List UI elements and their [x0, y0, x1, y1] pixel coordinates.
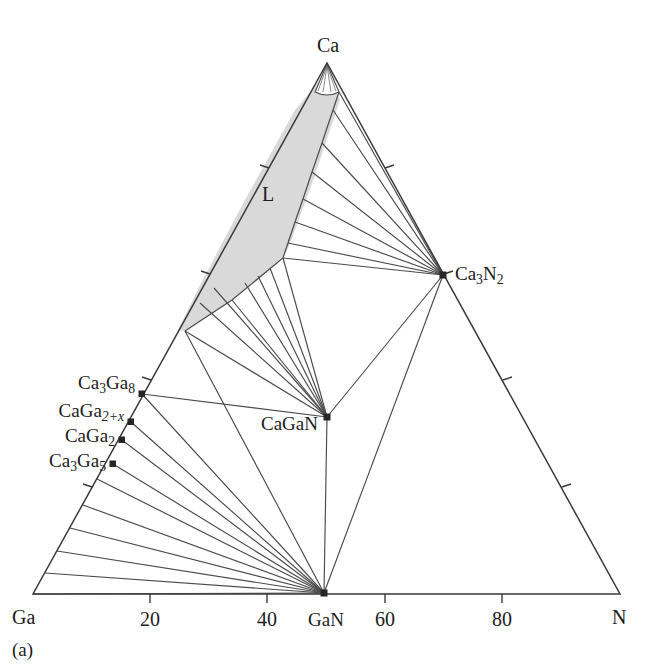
phase-label-ca3n2-mid: N: [483, 263, 497, 284]
marker-ca3ga5: [110, 461, 117, 468]
tick-label-40: 40: [257, 609, 277, 629]
tick-label-80: 80: [492, 609, 512, 629]
phase-label-caga2x: CaGa2+x: [59, 401, 124, 424]
marker-gan: [321, 590, 328, 597]
phase-label-ca3n2-sub2: 2: [497, 272, 504, 287]
phase-diagram-canvas: [0, 0, 648, 666]
phase-label-ca3ga5-sub2: 5: [99, 459, 106, 474]
marker-caga2: [119, 437, 126, 444]
phase-label-gan: GaN: [308, 610, 344, 629]
phase-label-gan-text: GaN: [308, 609, 344, 630]
phase-label-cagan: CaGaN: [261, 414, 318, 433]
phase-label-ca3n2: Ca3N2: [455, 264, 504, 287]
ternary-phase-diagram: Ga N Ca 20 40 60 80 GaN Ca3N2 CaGaN Ca3G…: [0, 0, 648, 666]
phase-label-ca3ga5: Ca3Ga5: [49, 451, 106, 474]
phase-label-cagan-text: CaGaN: [261, 413, 318, 434]
phase-label-caga2x-sub1: 2+x: [102, 409, 124, 424]
marker-ca3n2: [440, 272, 447, 279]
phase-label-caga2: CaGa2: [65, 426, 115, 449]
triangle-outline: [33, 63, 620, 594]
phase-label-ca3n2-base: Ca: [455, 263, 476, 284]
marker-cagan: [324, 414, 331, 421]
tick-label-60: 60: [375, 609, 395, 629]
phase-label-ca3n2-sub1: 3: [476, 272, 483, 287]
phase-label-ca3ga5-mid: Ga: [77, 450, 99, 471]
region-label-liquid: L: [262, 184, 274, 204]
corner-label-ca: Ca: [317, 35, 339, 55]
marker-caga2x: [128, 419, 135, 426]
liquid-region-fill: [178, 72, 340, 331]
phase-label-ca3ga8-sub1: 3: [99, 381, 106, 396]
ticks-right-axis: [385, 165, 571, 487]
phase-label-ca3ga8-mid: Ga: [106, 372, 128, 393]
phase-label-caga2-base: CaGa: [65, 425, 108, 446]
phase-label-ca3ga5-base: Ca: [49, 450, 70, 471]
phase-label-ca3ga8-base: Ca: [78, 372, 99, 393]
corner-label-ga: Ga: [12, 607, 35, 627]
liquid-region: [178, 72, 340, 331]
phase-label-ca3ga5-sub1: 3: [70, 459, 77, 474]
phase-label-ca3ga8-sub2: 8: [128, 381, 135, 396]
phase-label-ca3ga8: Ca3Ga8: [78, 373, 135, 396]
phase-label-caga2-sub1: 2: [108, 434, 115, 449]
compound-markers: [110, 272, 447, 597]
corner-label-n: N: [612, 607, 626, 627]
phase-label-caga2x-base: CaGa: [59, 400, 102, 421]
tick-label-20: 20: [140, 609, 160, 629]
marker-ca3ga8: [139, 391, 146, 398]
panel-label: (a): [12, 640, 33, 659]
